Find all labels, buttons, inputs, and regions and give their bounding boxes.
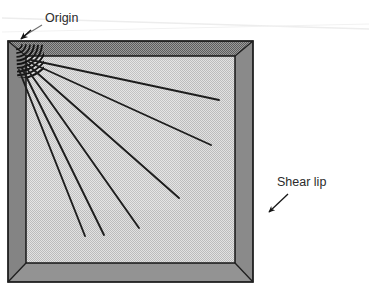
- shear-lip-right: [235, 41, 253, 282]
- fracture-face-highlight: [30, 60, 180, 210]
- shear-lip-bottom: [8, 263, 253, 282]
- figure-root: Origin Shear lip: [0, 0, 371, 292]
- shear-lip-top: [8, 41, 253, 56]
- shear-lip-left: [8, 41, 26, 282]
- shear-lip-label: Shear lip: [277, 175, 326, 189]
- fracture-surface-figure: Origin Shear lip: [0, 0, 371, 292]
- specimen-body: [8, 41, 253, 282]
- origin-label: Origin: [45, 11, 78, 25]
